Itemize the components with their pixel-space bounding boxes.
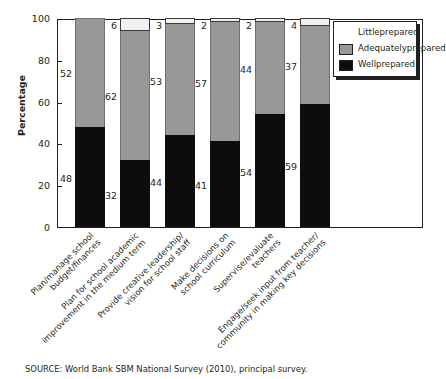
- bar-value-label-little: 4: [271, 21, 297, 31]
- source-note: SOURCE: World Bank SBM National Survey (…: [25, 364, 425, 374]
- bar-segment-well-prepared: [210, 141, 240, 227]
- bar-value-label-little: 3: [136, 21, 162, 31]
- bar-segment-little-prepared: [300, 18, 330, 26]
- bar-segment-well-prepared: [300, 104, 330, 227]
- bar-segment-well-prepared: [75, 127, 105, 227]
- bar-value-label-adequately: 57: [181, 79, 207, 89]
- y-axis-tick-mark: [57, 61, 62, 62]
- legend-label-line2: prepared: [407, 43, 446, 53]
- legend-label-line2: prepared: [380, 27, 419, 37]
- x-axis-category-labels: Plan/manage schoolbudget/financesPlan fo…: [0, 228, 436, 348]
- bar-value-label-well: 44: [136, 178, 162, 188]
- bar-value-label-well: 54: [226, 168, 252, 178]
- y-axis-tick-label: 40: [0, 139, 57, 149]
- legend-label-line1: Well: [358, 59, 376, 69]
- legend-item-little: Littleprepared: [339, 27, 412, 39]
- chart-legend: LittlepreparedAdequatelypreparedWellprep…: [333, 21, 417, 77]
- bar-value-label-adequately: 62: [91, 92, 117, 102]
- legend-label-adequately: Adequatelyprepared: [358, 43, 446, 53]
- bar-value-label-well: 59: [271, 162, 297, 172]
- y-axis-tick-label: 100: [0, 14, 57, 24]
- bar-stack: [210, 18, 240, 227]
- y-axis-tick-mark: [57, 186, 62, 187]
- y-axis-tick-label: 80: [0, 56, 57, 66]
- bar-stack: [300, 18, 330, 227]
- legend-item-well: Wellprepared: [339, 59, 412, 71]
- bar-value-label-adequately: 44: [226, 65, 252, 75]
- bar-segment-adequately-prepared: [210, 22, 240, 141]
- y-axis-tick-mark: [57, 144, 62, 145]
- legend-label-little: Littleprepared: [358, 27, 419, 37]
- bar-stack: [255, 18, 285, 227]
- bar-segment-adequately-prepared: [75, 18, 105, 127]
- legend-swatch-adequately: [339, 44, 353, 55]
- bar-value-label-little: 2: [181, 21, 207, 31]
- legend-item-adequately: Adequatelyprepared: [339, 43, 412, 55]
- bar-value-label-well: 32: [91, 191, 117, 201]
- y-axis-tick-label: 20: [0, 181, 57, 191]
- bar-stack: [120, 18, 150, 227]
- legend-swatch-little: [339, 28, 353, 39]
- legend-label-line1: Adequately: [358, 43, 407, 53]
- legend-label-well: Wellprepared: [358, 59, 415, 69]
- y-axis-tick-label: 60: [0, 98, 57, 108]
- bar-segment-adequately-prepared: [120, 31, 150, 161]
- bar-segment-well-prepared: [120, 160, 150, 227]
- legend-swatch-well: [339, 60, 353, 71]
- y-axis-tick-mark: [57, 103, 62, 104]
- bar-value-label-little: 6: [91, 21, 117, 31]
- bar-value-label-adequately: 52: [46, 69, 72, 79]
- legend-label-line1: Little: [358, 27, 380, 37]
- legend-label-line2: prepared: [376, 59, 415, 69]
- bar-value-label-adequately: 37: [271, 62, 297, 72]
- bar-value-label-adequately: 53: [136, 77, 162, 87]
- bar-segment-adequately-prepared: [300, 26, 330, 103]
- bar-value-label-little: 2: [226, 21, 252, 31]
- bar-value-label-well: 41: [181, 181, 207, 191]
- bar-stack: [165, 18, 195, 227]
